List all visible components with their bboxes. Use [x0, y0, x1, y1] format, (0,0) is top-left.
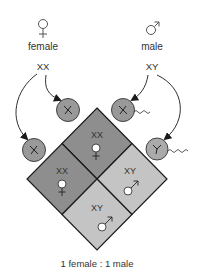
male-parent: male XY — [141, 22, 163, 72]
offspring-genotype: XX — [56, 166, 68, 176]
sperm-right — [146, 138, 188, 160]
male-label: male — [141, 41, 163, 52]
male-genotype: XY — [146, 61, 159, 72]
sex-determination-diagram: female XX male XY XX XX — [0, 0, 200, 271]
arrow-male-to-sperm-right — [157, 75, 180, 139]
female-parent: female XX — [28, 20, 58, 73]
egg-top — [57, 99, 80, 122]
offspring-genotype: XX — [91, 130, 103, 140]
arrow-female-to-egg-left — [16, 74, 37, 139]
male-symbol-icon — [147, 22, 160, 35]
female-label: female — [28, 41, 58, 52]
sperm-top — [112, 99, 151, 122]
ratio-caption: 1 female : 1 male — [61, 258, 134, 269]
female-symbol-icon — [39, 20, 48, 39]
female-genotype: XX — [37, 61, 50, 72]
arrow-female-to-egg-top — [46, 75, 60, 100]
arrow-male-to-sperm-top — [132, 75, 148, 100]
sperm-tail-icon — [134, 111, 150, 114]
offspring-genotype: XY — [124, 166, 136, 176]
egg-left — [23, 139, 46, 162]
sperm-tail-icon — [168, 150, 188, 153]
offspring-genotype: XY — [91, 203, 103, 213]
